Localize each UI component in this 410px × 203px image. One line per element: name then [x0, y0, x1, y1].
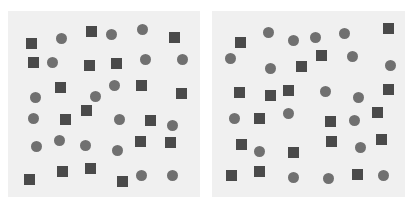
- circle-icon: [288, 172, 299, 183]
- circle-icon: [323, 173, 334, 184]
- square-icon: [85, 163, 96, 174]
- circle-icon: [167, 120, 178, 131]
- square-icon: [383, 84, 394, 95]
- circle-icon: [263, 27, 274, 38]
- square-icon: [135, 136, 146, 147]
- circle-icon: [378, 170, 389, 181]
- circle-icon: [90, 91, 101, 102]
- square-icon: [60, 114, 71, 125]
- circle-icon: [265, 63, 276, 74]
- square-icon: [176, 88, 187, 99]
- square-icon: [376, 134, 387, 145]
- circle-icon: [177, 54, 188, 65]
- square-icon: [265, 90, 276, 101]
- square-icon: [136, 80, 147, 91]
- circle-icon: [56, 33, 67, 44]
- square-icon: [145, 115, 156, 126]
- circle-icon: [283, 108, 294, 119]
- square-icon: [26, 38, 37, 49]
- square-icon: [254, 166, 265, 177]
- square-icon: [86, 26, 97, 37]
- square-icon: [325, 116, 336, 127]
- square-icon: [254, 113, 265, 124]
- circle-icon: [254, 146, 265, 157]
- square-icon: [383, 23, 394, 34]
- circle-icon: [136, 170, 147, 181]
- circle-icon: [353, 92, 364, 103]
- circle-icon: [109, 80, 120, 91]
- circle-icon: [137, 24, 148, 35]
- circle-icon: [385, 60, 396, 71]
- square-icon: [372, 107, 383, 118]
- square-icon: [81, 105, 92, 116]
- circle-icon: [106, 29, 117, 40]
- square-icon: [283, 85, 294, 96]
- square-icon: [235, 37, 246, 48]
- square-icon: [169, 32, 180, 43]
- square-icon: [288, 147, 299, 158]
- circle-icon: [229, 113, 240, 124]
- circle-icon: [28, 113, 39, 124]
- circle-icon: [54, 135, 65, 146]
- square-icon: [352, 169, 363, 180]
- square-icon: [296, 61, 307, 72]
- circle-icon: [167, 170, 178, 181]
- square-icon: [55, 82, 66, 93]
- square-icon: [111, 58, 122, 69]
- square-icon: [28, 57, 39, 68]
- circle-icon: [47, 57, 58, 68]
- square-icon: [84, 60, 95, 71]
- circle-icon: [349, 115, 360, 126]
- circle-icon: [31, 141, 42, 152]
- circle-icon: [80, 140, 91, 151]
- square-icon: [165, 137, 176, 148]
- square-icon: [226, 170, 237, 181]
- circle-icon: [30, 92, 41, 103]
- square-icon: [326, 136, 337, 147]
- circle-icon: [140, 54, 151, 65]
- circle-icon: [310, 32, 321, 43]
- square-icon: [234, 87, 245, 98]
- circle-icon: [112, 145, 123, 156]
- circle-icon: [355, 142, 366, 153]
- circle-icon: [114, 114, 125, 125]
- circle-icon: [339, 28, 350, 39]
- circle-icon: [347, 51, 358, 62]
- square-icon: [316, 50, 327, 61]
- circle-icon: [225, 53, 236, 64]
- circle-icon: [288, 35, 299, 46]
- square-icon: [117, 176, 128, 187]
- square-icon: [24, 174, 35, 185]
- square-icon: [57, 166, 68, 177]
- circle-icon: [320, 86, 331, 97]
- square-icon: [236, 139, 247, 150]
